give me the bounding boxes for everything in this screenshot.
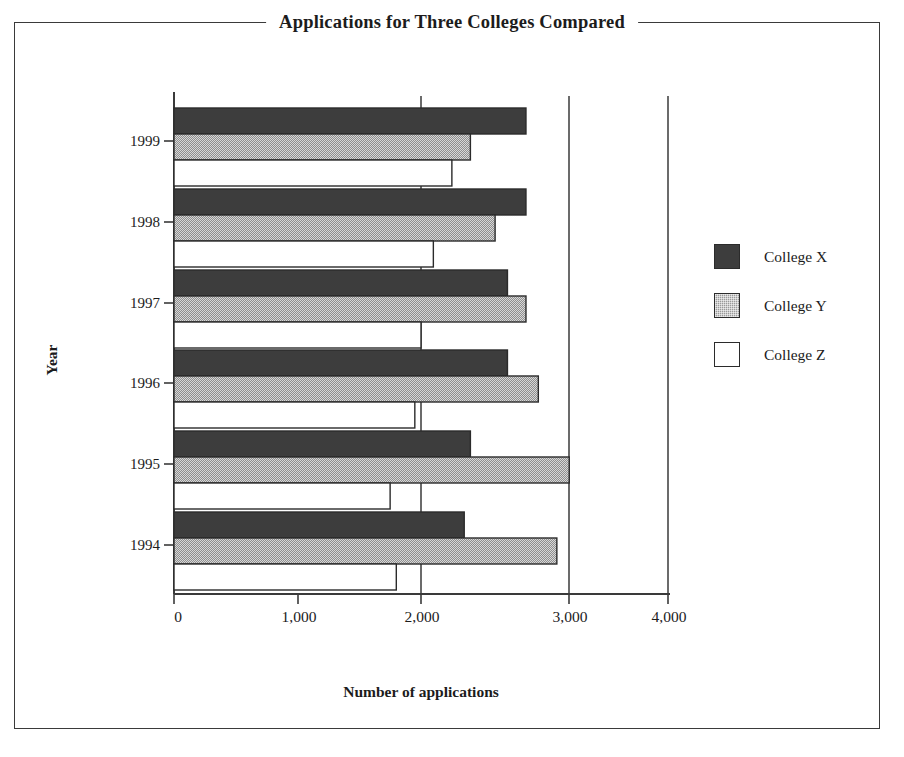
chart-title: Applications for Three Colleges Compared xyxy=(266,12,638,33)
y-axis-title: Year xyxy=(43,345,61,376)
ytick-label-1994: 1994 xyxy=(118,537,160,554)
xtick-label-2000: 2,000 xyxy=(405,608,440,626)
ytick-label-1996: 1996 xyxy=(118,375,160,392)
xtick-label-3000: 3,000 xyxy=(553,608,588,626)
ytick-label-1998: 1998 xyxy=(118,214,160,231)
legend-row-college-x: College X xyxy=(714,242,864,271)
x-axis-title: Number of applications xyxy=(343,683,499,701)
xtick-label-4000: 4,000 xyxy=(652,608,687,626)
ytick-label-1995: 1995 xyxy=(118,456,160,473)
xtick-label-1000: 1,000 xyxy=(282,608,317,626)
legend-swatch-icon-college-z xyxy=(714,342,740,367)
ytick-label-1999: 1999 xyxy=(118,133,160,150)
legend-swatch-icon-college-x xyxy=(714,244,740,269)
ytick-label-1997: 1997 xyxy=(118,295,160,312)
legend-swatch-icon-college-y xyxy=(714,293,740,318)
legend-label-college-y: College Y xyxy=(764,297,827,315)
legend-row-college-z: College Z xyxy=(714,340,864,369)
xtick-label-0: 0 xyxy=(174,608,182,626)
legend-row-college-y: College Y xyxy=(714,291,864,320)
legend-label-college-x: College X xyxy=(764,248,827,266)
legend-label-college-z: College Z xyxy=(764,346,826,364)
chart-legend: College X College Y College Z xyxy=(714,242,864,389)
